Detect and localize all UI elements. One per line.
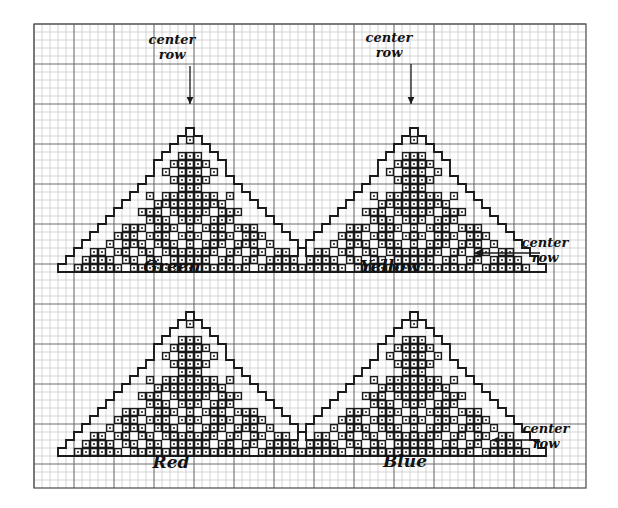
stitch-symbol-dot bbox=[173, 243, 175, 245]
chart-label-yellow: Yellow bbox=[360, 256, 422, 276]
stitch-symbol-dot bbox=[93, 435, 95, 437]
stitch-symbol-dot bbox=[141, 435, 143, 437]
stitch-symbol-dot bbox=[141, 395, 143, 397]
stitch-symbol-dot bbox=[205, 195, 207, 197]
stitch-symbol-dot bbox=[389, 171, 391, 173]
stitch-symbol-dot bbox=[197, 371, 199, 373]
stitch-symbol-dot bbox=[77, 267, 79, 269]
stitch-symbol-dot bbox=[397, 179, 399, 181]
stitch-symbol-dot bbox=[173, 203, 175, 205]
annotation-line-1: center bbox=[366, 30, 414, 45]
stitch-symbol-dot bbox=[317, 443, 319, 445]
stitch-symbol-dot bbox=[253, 243, 255, 245]
stitch-symbol-dot bbox=[357, 267, 359, 269]
stitch-symbol-dot bbox=[213, 267, 215, 269]
stitch-symbol-dot bbox=[213, 227, 215, 229]
stitch-symbol-dot bbox=[173, 443, 175, 445]
stitch-symbol-dot bbox=[213, 251, 215, 253]
stitch-symbol-dot bbox=[165, 251, 167, 253]
stitch-symbol-dot bbox=[405, 371, 407, 373]
stitch-symbol-dot bbox=[469, 443, 471, 445]
stitch-symbol-dot bbox=[197, 419, 199, 421]
stitch-symbol-dot bbox=[333, 451, 335, 453]
stitch-symbol-dot bbox=[253, 435, 255, 437]
stitch-symbol-dot bbox=[205, 435, 207, 437]
stitch-symbol-dot bbox=[221, 451, 223, 453]
stitch-symbol-dot bbox=[109, 443, 111, 445]
stitch-symbol-dot bbox=[429, 179, 431, 181]
stitch-symbol-dot bbox=[125, 259, 127, 261]
stitch-symbol-dot bbox=[509, 435, 511, 437]
stitch-symbol-dot bbox=[445, 227, 447, 229]
stitch-symbol-dot bbox=[453, 419, 455, 421]
stitch-symbol-dot bbox=[181, 363, 183, 365]
stitch-symbol-dot bbox=[405, 379, 407, 381]
stitch-symbol-dot bbox=[421, 363, 423, 365]
stitch-symbol-dot bbox=[181, 379, 183, 381]
stitch-symbol-dot bbox=[421, 251, 423, 253]
stitch-symbol-dot bbox=[205, 243, 207, 245]
annotation-line-2: row bbox=[532, 250, 560, 265]
stitch-symbol-dot bbox=[181, 219, 183, 221]
stitch-symbol-dot bbox=[205, 227, 207, 229]
stitch-symbol-dot bbox=[413, 355, 415, 357]
stitch-symbol-dot bbox=[397, 347, 399, 349]
stitch-symbol-dot bbox=[205, 363, 207, 365]
stitch-symbol-dot bbox=[381, 395, 383, 397]
stitch-symbol-dot bbox=[389, 411, 391, 413]
stitch-symbol-dot bbox=[381, 403, 383, 405]
stitch-symbol-dot bbox=[237, 251, 239, 253]
stitch-symbol-dot bbox=[397, 243, 399, 245]
stitch-symbol-dot bbox=[349, 443, 351, 445]
stitch-symbol-dot bbox=[485, 435, 487, 437]
stitch-symbol-dot bbox=[253, 419, 255, 421]
stitch-symbol-dot bbox=[189, 427, 191, 429]
stitch-symbol-dot bbox=[205, 395, 207, 397]
stitch-symbol-dot bbox=[165, 419, 167, 421]
stitch-symbol-dot bbox=[221, 219, 223, 221]
stitch-symbol-dot bbox=[181, 155, 183, 157]
stitch-symbol-dot bbox=[245, 419, 247, 421]
stitch-symbol-dot bbox=[149, 419, 151, 421]
stitch-symbol-dot bbox=[437, 355, 439, 357]
stitch-symbol-dot bbox=[381, 419, 383, 421]
stitch-symbol-dot bbox=[165, 355, 167, 357]
stitch-symbol-dot bbox=[397, 443, 399, 445]
stitch-symbol-dot bbox=[389, 403, 391, 405]
stitch-symbol-dot bbox=[509, 443, 511, 445]
stitch-symbol-dot bbox=[413, 339, 415, 341]
stitch-symbol-dot bbox=[229, 395, 231, 397]
stitch-symbol-dot bbox=[237, 451, 239, 453]
stitch-symbol-dot bbox=[373, 219, 375, 221]
stitch-symbol-dot bbox=[245, 427, 247, 429]
stitch-symbol-dot bbox=[181, 395, 183, 397]
stitch-symbol-dot bbox=[333, 259, 335, 261]
stitch-symbol-dot bbox=[237, 427, 239, 429]
stitch-symbol-dot bbox=[109, 243, 111, 245]
stitch-symbol-dot bbox=[429, 243, 431, 245]
stitch-symbol-dot bbox=[469, 419, 471, 421]
stitch-symbol-dot bbox=[477, 419, 479, 421]
stitch-symbol-dot bbox=[477, 435, 479, 437]
stitch-symbol-dot bbox=[197, 451, 199, 453]
stitch-symbol-dot bbox=[397, 163, 399, 165]
stitch-symbol-dot bbox=[389, 203, 391, 205]
stitch-symbol-dot bbox=[261, 251, 263, 253]
stitch-symbol-dot bbox=[205, 451, 207, 453]
stitch-symbol-dot bbox=[173, 227, 175, 229]
stitch-symbol-dot bbox=[461, 267, 463, 269]
stitch-symbol-dot bbox=[469, 227, 471, 229]
stitch-symbol-dot bbox=[429, 195, 431, 197]
stitch-symbol-dot bbox=[221, 259, 223, 261]
stitch-symbol-dot bbox=[453, 395, 455, 397]
stitch-symbol-dot bbox=[333, 267, 335, 269]
stitch-symbol-dot bbox=[245, 259, 247, 261]
stitch-symbol-dot bbox=[341, 435, 343, 437]
stitch-symbol-dot bbox=[93, 451, 95, 453]
stitch-symbol-dot bbox=[413, 435, 415, 437]
stitch-symbol-dot bbox=[221, 443, 223, 445]
stitch-symbol-dot bbox=[173, 211, 175, 213]
stitch-symbol-dot bbox=[157, 427, 159, 429]
stitch-symbol-dot bbox=[165, 219, 167, 221]
stitch-symbol-dot bbox=[445, 395, 447, 397]
